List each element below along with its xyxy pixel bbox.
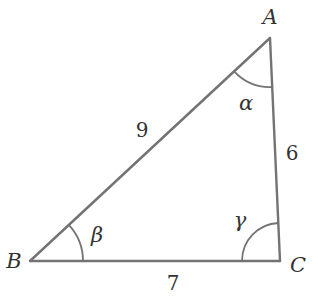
angle-arc-beta — [69, 225, 83, 261]
side-label-ab: 9 — [136, 120, 149, 140]
angle-label-gamma: γ — [234, 210, 247, 231]
triangle-figure — [0, 0, 318, 307]
side-label-ac: 6 — [286, 143, 299, 163]
side-label-bc: 7 — [167, 273, 180, 293]
triangle-diagram: A B C 9 7 6 α β γ — [0, 0, 318, 307]
side-ac — [270, 38, 280, 261]
vertex-label-c: C — [290, 255, 306, 276]
angle-label-alpha: α — [239, 93, 253, 114]
angle-arc-alpha — [234, 71, 272, 87]
angle-label-beta: β — [91, 225, 103, 246]
vertex-label-a: A — [262, 7, 277, 28]
vertex-label-b: B — [6, 251, 21, 272]
angle-arc-gamma — [242, 223, 278, 261]
